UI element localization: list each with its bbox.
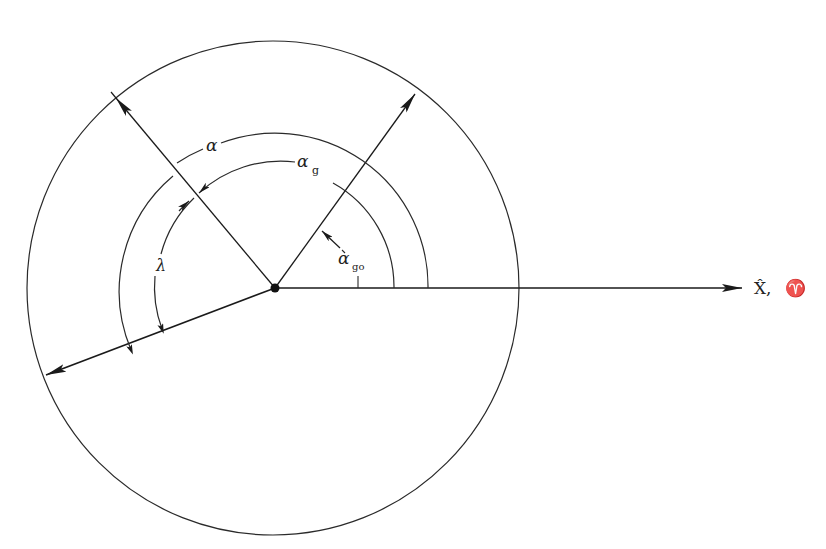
upper-left-vector-extension [111,92,116,98]
lambda-arc-upper [161,198,194,254]
svg-text:go: go [352,261,364,272]
alpha-g0-pointer [322,231,340,248]
alpha-g-arc-upper [199,161,295,193]
svg-text:α: α [338,248,350,268]
alpha-g-arc [333,183,394,288]
origin-point [271,284,280,293]
svg-text:g: g [312,164,319,177]
upper-left-vector [116,98,275,288]
angle-diagram: α α g α go λ X̂, ♈ [0,0,826,549]
alpha-arc-tail [177,149,203,163]
svg-text:X̂,: X̂, [754,278,772,298]
svg-text:α: α [297,151,309,171]
x-axis-label: X̂, ♈ [754,278,806,298]
lambda-label: λ [155,256,166,275]
diagram-canvas: α α g α go λ X̂, ♈ [0,0,826,549]
alpha-g-label: α g [297,151,319,177]
alpha-arc [221,133,428,288]
alpha-g0-label: α go [338,248,364,272]
lower-left-vector [46,288,275,375]
aries-symbol: ♈ [785,278,806,298]
lambda-arc-lower [154,276,162,329]
alpha-label: α [206,135,218,155]
